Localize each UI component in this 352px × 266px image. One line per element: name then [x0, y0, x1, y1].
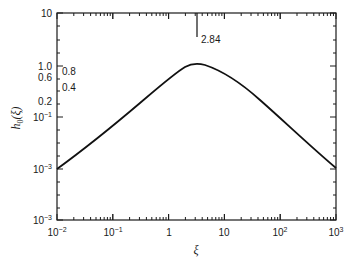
y-tick-1e-3-lower: 10−3 [33, 214, 52, 226]
y-tick-1: 1.0 [38, 61, 52, 72]
y-tick-0.6: 0.6 [38, 72, 52, 83]
x-tick-1e3: 103 [328, 226, 343, 238]
x-tick-10: 10 [218, 227, 230, 238]
x-ticks [57, 13, 336, 220]
y-tick-0.2: 0.2 [38, 96, 52, 107]
x-tick-1e-2: 10−2 [47, 226, 66, 238]
y-ticks [57, 13, 336, 220]
inner-label-0.4: 0.4 [62, 82, 76, 93]
x-tick-1e-1: 10−1 [103, 226, 122, 238]
y-tick-10: 10 [41, 8, 53, 19]
x-tick-1e2: 102 [272, 226, 287, 238]
chart: 2.84 10 1.0 0.6 0.2 10−1 10−3 10−3 0.8 0… [0, 0, 352, 266]
inner-label-0.8: 0.8 [62, 66, 76, 77]
x-tick-1: 1 [166, 227, 172, 238]
data-curve [57, 64, 336, 169]
plot-frame [57, 13, 336, 220]
annotation-label: 2.84 [201, 34, 221, 45]
y-tick-1e-1: 10−1 [33, 111, 52, 123]
x-axis-title: ξ [193, 243, 199, 257]
y-tick-1e-3-upper: 10−3 [33, 163, 52, 175]
y-axis-title: h0(ξ) [9, 106, 25, 129]
